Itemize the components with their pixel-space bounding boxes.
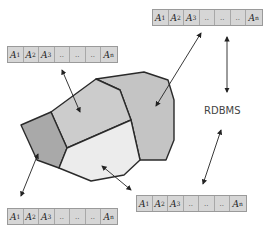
column-ellipsis: ..: [184, 196, 200, 211]
column-a1: A1: [153, 10, 169, 25]
column-a2: A2: [153, 196, 169, 211]
column-ellipsis: ..: [231, 10, 247, 25]
column-a1: A1: [8, 209, 24, 224]
column-ellipsis: ..: [86, 209, 102, 224]
column-ellipsis: ..: [199, 196, 215, 211]
arrow-bottom-left-table: [21, 154, 38, 196]
column-a3: A3: [39, 209, 55, 224]
column-ellipsis: ..: [70, 47, 86, 62]
column-an: An: [101, 209, 117, 224]
column-ellipsis: ..: [70, 209, 86, 224]
column-a2: A2: [24, 209, 40, 224]
column-an: An: [230, 196, 246, 211]
rdbms-label: RDBMS: [204, 105, 240, 116]
column-a3: A3: [184, 10, 200, 25]
column-ellipsis: ..: [86, 47, 102, 62]
relation-table-top-right: A1 A2 A3 .. .. .. An: [152, 9, 263, 26]
column-an: An: [101, 47, 117, 62]
relation-table-bottom-right: A1 A2 A3 .. .. .. An: [136, 195, 247, 212]
column-ellipsis: ..: [55, 209, 71, 224]
relation-table-left: A1 A2 A3 .. .. .. An: [7, 46, 118, 63]
column-a3: A3: [168, 196, 184, 211]
column-a2: A2: [169, 10, 185, 25]
column-ellipsis: ..: [200, 10, 216, 25]
column-a3: A3: [39, 47, 55, 62]
column-a1: A1: [137, 196, 153, 211]
column-ellipsis: ..: [215, 196, 231, 211]
arrow-rdbms-bottom: [203, 130, 221, 184]
column-an: An: [246, 10, 262, 25]
column-ellipsis: ..: [55, 47, 71, 62]
arrow-top-right-table: [156, 33, 201, 106]
column-ellipsis: ..: [215, 10, 231, 25]
column-a2: A2: [24, 47, 40, 62]
spatial-regions: [21, 72, 174, 181]
column-a1: A1: [8, 47, 24, 62]
relation-table-bottom-left: A1 A2 A3 .. .. .. An: [7, 208, 118, 225]
